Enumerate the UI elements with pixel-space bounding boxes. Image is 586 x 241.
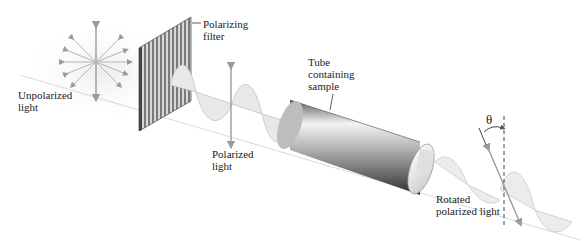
rotated-light-label: Rotated polarized light (436, 193, 500, 217)
sample-tube (272, 94, 440, 197)
tube-label: Tube containing sample (308, 56, 354, 92)
polarizing-filter-label: Polarizing filter (203, 18, 248, 42)
theta-angle-indicator (479, 127, 503, 145)
optical-rotation-diagram: Unpolarized light Polarizing filter Pola… (0, 0, 586, 241)
unpolarized-light-label: Unpolarized light (18, 89, 72, 113)
theta-label: θ (486, 114, 492, 126)
polarized-light-label: Polarized light (212, 148, 254, 172)
